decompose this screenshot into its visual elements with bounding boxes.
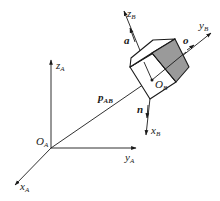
x-b-label: xB [150, 124, 161, 138]
origin-b-dot [151, 79, 154, 82]
origin-a-label: OA [36, 135, 49, 149]
p-ab-label: pAB [97, 91, 113, 105]
a-vector-label: a [124, 34, 130, 46]
frame-transform-diagram: zA yA xA OA pAB zB yB xB OB a o n [0, 0, 220, 201]
y-a-label: yA [124, 151, 135, 165]
y-b-label: yB [198, 19, 209, 33]
z-b-label: zB [126, 7, 136, 21]
z-a-label: zA [55, 59, 65, 73]
frame-a-axes [15, 60, 136, 185]
n-vector-label: n [137, 103, 143, 115]
vector-a [130, 28, 135, 42]
x-a-label: xA [19, 180, 30, 194]
o-vector-label: o [183, 34, 189, 46]
